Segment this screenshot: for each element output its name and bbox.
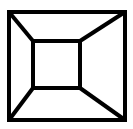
diagonal-bottom-left [9,88,33,120]
diagonal-bottom-right [80,88,125,120]
diagonal-top-right [80,12,125,41]
outer-square [9,12,125,120]
inner-square [33,41,80,88]
diagonal-top-left [9,12,33,41]
box-diagram [0,0,133,129]
